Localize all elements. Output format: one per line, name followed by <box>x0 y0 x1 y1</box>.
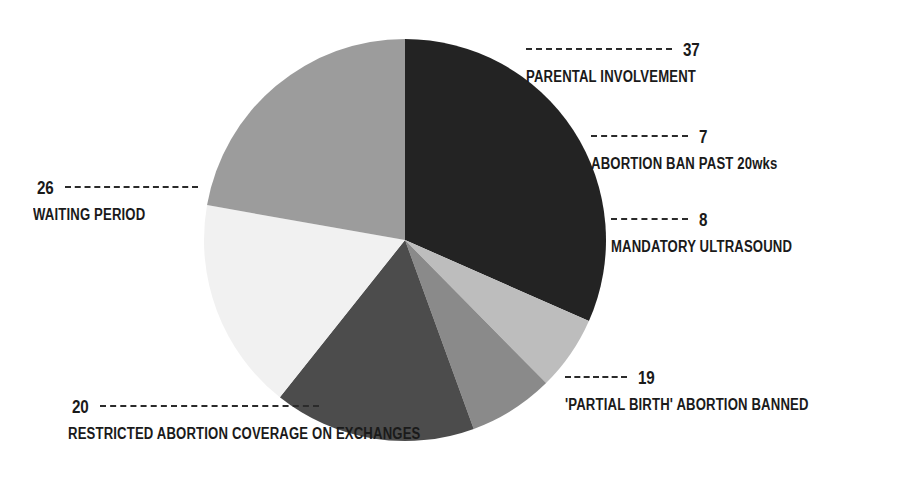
pie-chart-figure: 37 PARENTAL INVOLVEMENT 7 ABORTION BAN P… <box>0 0 903 486</box>
callout-label-parental-involvement: PARENTAL INVOLVEMENT <box>526 68 696 86</box>
callout-partial-birth-abortion-banned: 19 'PARTIAL BIRTH' ABORTION BANNED <box>565 367 862 414</box>
callout-restricted-abortion-coverage: 20 RESTRICTED ABORTION COVERAGE ON EXCHA… <box>68 396 498 443</box>
leader-line-partial-birth-abortion-banned <box>565 376 627 378</box>
callout-label-partial-birth-abortion-banned: 'PARTIAL BIRTH' ABORTION BANNED <box>565 396 809 414</box>
callout-abortion-ban-past-20wks: 7 ABORTION BAN PAST 20wks <box>591 126 818 173</box>
callout-label-mandatory-ultrasound: MANDATORY ULTRASOUND <box>611 238 792 256</box>
callout-value-abortion-ban-past-20wks: 7 <box>699 127 707 146</box>
leader-line-waiting-period <box>65 186 198 188</box>
pie-slice-waiting-period <box>207 39 405 240</box>
callout-value-parental-involvement: 37 <box>683 40 699 59</box>
callout-value-mandatory-ultrasound: 8 <box>699 210 707 229</box>
callout-value-waiting-period: 26 <box>37 178 53 197</box>
callout-value-restricted-abortion-coverage: 20 <box>72 397 88 416</box>
pie-chart-graphic <box>203 38 607 442</box>
callout-parental-involvement: 37 PARENTAL INVOLVEMENT <box>526 39 733 86</box>
callout-mandatory-ultrasound: 8 MANDATORY ULTRASOUND <box>611 209 832 256</box>
leader-line-restricted-abortion-coverage <box>100 405 319 407</box>
leader-line-mandatory-ultrasound <box>611 218 688 220</box>
callout-label-restricted-abortion-coverage: RESTRICTED ABORTION COVERAGE ON EXCHANGE… <box>68 425 420 443</box>
callout-value-partial-birth-abortion-banned: 19 <box>638 368 654 387</box>
leader-line-abortion-ban-past-20wks <box>591 135 688 137</box>
leader-line-parental-involvement <box>526 48 672 50</box>
callout-waiting-period: 26 WAITING PERIOD <box>33 177 198 224</box>
callout-label-waiting-period: WAITING PERIOD <box>33 206 145 224</box>
callout-label-abortion-ban-past-20wks: ABORTION BAN PAST 20wks <box>591 155 778 173</box>
